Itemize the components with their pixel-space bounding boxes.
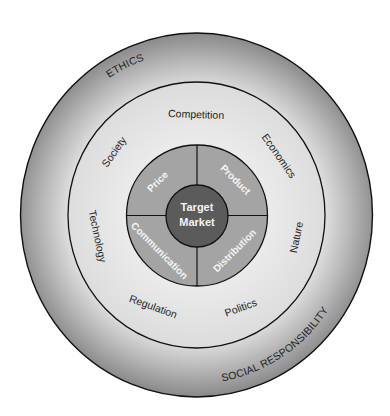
label-competition: Competition bbox=[168, 107, 225, 121]
label-market: Market bbox=[179, 216, 215, 228]
label-target: Target bbox=[181, 201, 214, 213]
marketing-environment-diagram: ETHICS SOCIAL RESPONSIBILITY Competition… bbox=[0, 0, 390, 416]
